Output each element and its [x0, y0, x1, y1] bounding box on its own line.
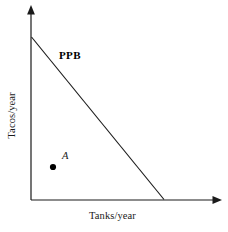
y-axis-label-text: Tacos/year: [6, 92, 17, 138]
point-a-label: A: [62, 150, 68, 161]
point-a-marker: [50, 164, 56, 170]
ppb-label: PPB: [59, 49, 81, 61]
x-axis-arrowhead: [213, 196, 223, 204]
x-axis-label: Tanks/year: [89, 210, 136, 221]
plot-canvas: [0, 0, 228, 232]
ppb-diagram: Tacos/year Tanks/year PPB A: [0, 0, 228, 232]
y-axis-arrowhead: [27, 5, 35, 15]
y-axis-label: Tacos/year: [0, 65, 22, 165]
ppb-line: [32, 37, 165, 200]
